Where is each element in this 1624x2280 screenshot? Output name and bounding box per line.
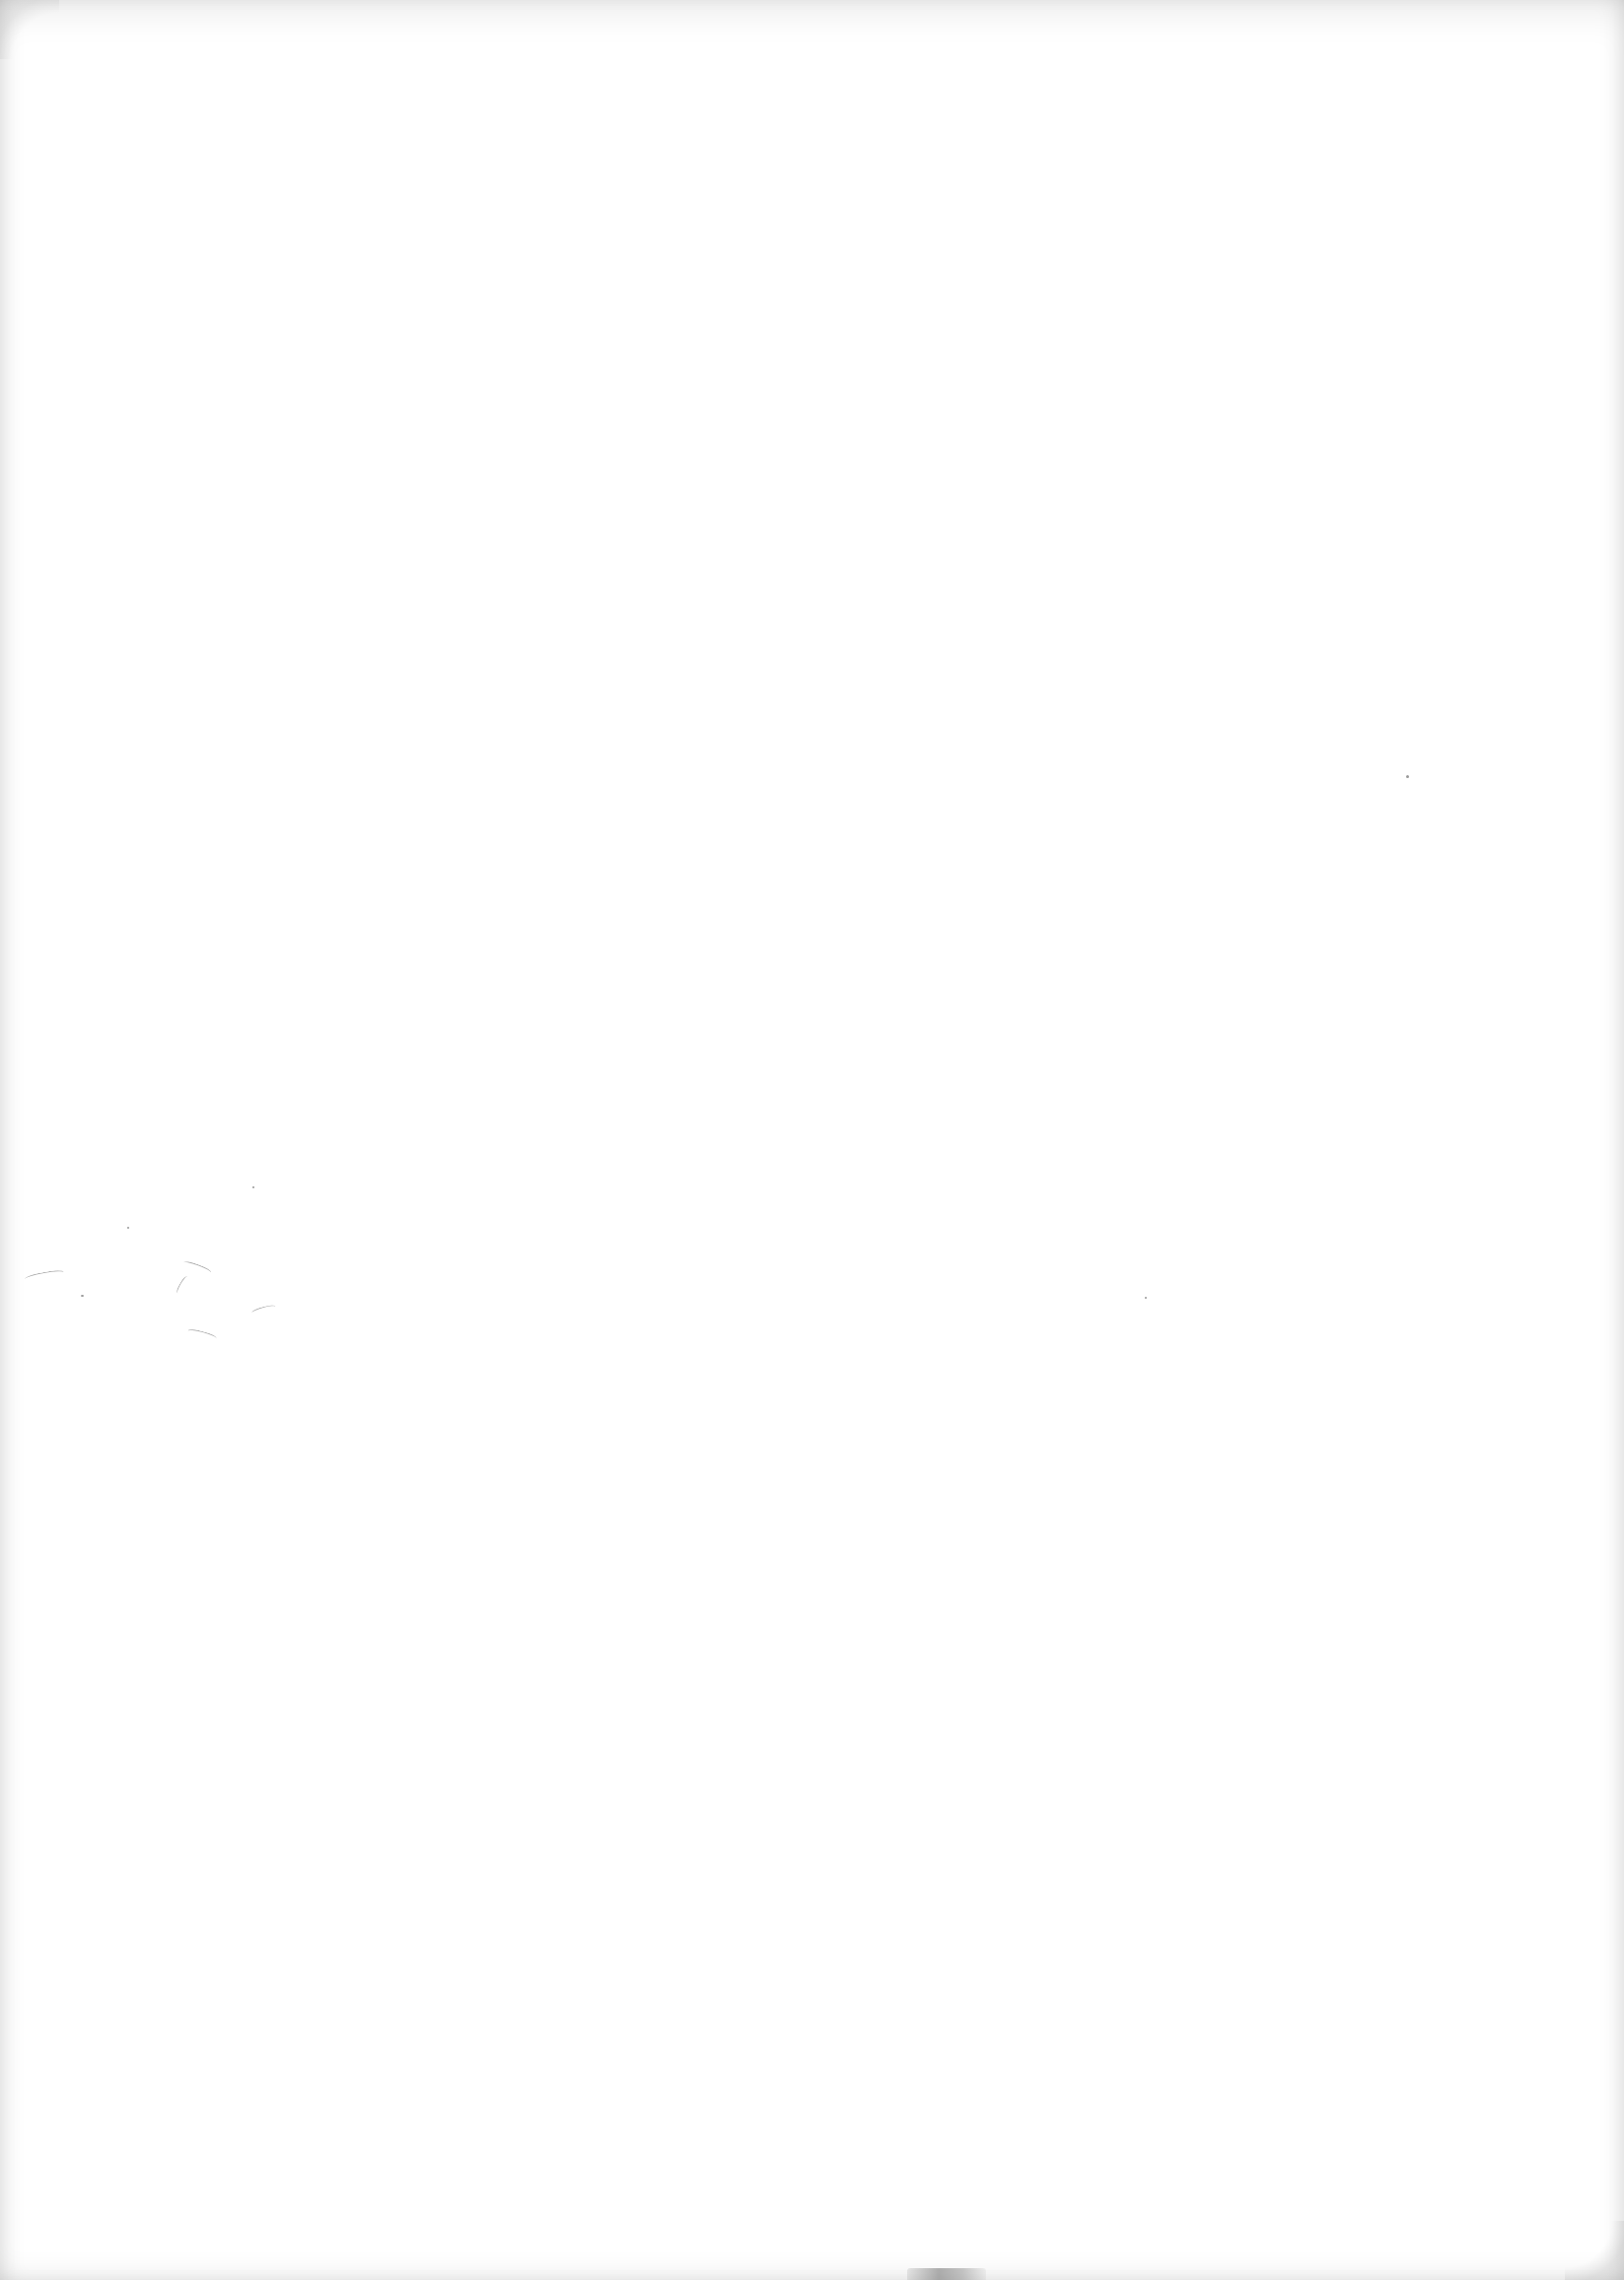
dust-speck (1406, 775, 1409, 778)
paper-fiber (182, 1259, 213, 1276)
scanned-page (0, 0, 1624, 2280)
dust-speck (1145, 1297, 1147, 1299)
dust-speck (81, 1295, 84, 1297)
page-corner-shadow-bottom-right (1565, 2221, 1624, 2280)
page-corner-shadow-top-left (0, 0, 59, 59)
bottom-scanner-smudge (907, 2268, 986, 2280)
dust-speck (252, 1186, 254, 1188)
dust-speck (127, 1227, 129, 1229)
paper-fiber (251, 1304, 277, 1316)
paper-fiber (25, 1269, 65, 1283)
paper-fiber (187, 1327, 218, 1342)
paper-fiber (175, 1275, 189, 1295)
